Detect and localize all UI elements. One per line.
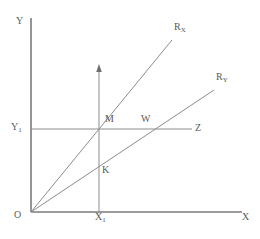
ray-label-rx-subscript: X bbox=[181, 26, 186, 34]
diagram-canvas: Y X O Y1 X1 M W K Z RX RY bbox=[0, 0, 260, 239]
ray-rx-line bbox=[31, 40, 172, 212]
ray-label-ry-subscript: Y bbox=[223, 76, 228, 84]
ray-label-ry: RY bbox=[216, 72, 228, 82]
axis-label-x: X bbox=[242, 212, 249, 222]
point-label-w: W bbox=[141, 114, 150, 124]
arrowhead-up-icon bbox=[96, 64, 102, 72]
origin-label: O bbox=[14, 210, 21, 220]
diagram-svg bbox=[0, 0, 260, 239]
tick-label-x1: X1 bbox=[95, 212, 106, 222]
axis-label-y: Y bbox=[16, 16, 23, 26]
point-label-k: K bbox=[102, 165, 109, 175]
tick-label-y1: Y1 bbox=[11, 122, 22, 132]
ray-label-rx: RX bbox=[174, 22, 186, 32]
tick-label-x1-subscript: 1 bbox=[102, 216, 106, 224]
ray-ry-line bbox=[31, 90, 214, 212]
point-label-m: M bbox=[105, 114, 114, 124]
guide-label-z: Z bbox=[195, 123, 201, 133]
tick-label-y1-subscript: 1 bbox=[18, 126, 22, 134]
ray-label-rx-base: R bbox=[174, 21, 181, 32]
ray-label-ry-base: R bbox=[216, 71, 223, 82]
